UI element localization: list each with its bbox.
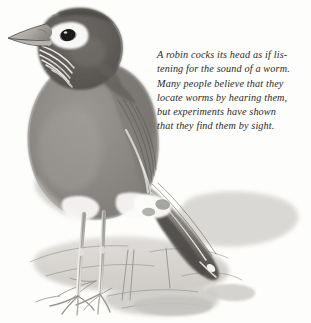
beak-group — [8, 24, 52, 46]
caption-text: A robin cocks its head as if lis- tening… — [157, 48, 305, 134]
leg-joint-right — [99, 246, 105, 254]
leg-joint-left — [78, 248, 84, 256]
undertail-spot-2 — [142, 208, 155, 216]
eye-highlight — [64, 31, 67, 34]
breast-highlight — [38, 108, 102, 192]
illustration-page: A robin cocks its head as if lis- tening… — [0, 0, 311, 323]
